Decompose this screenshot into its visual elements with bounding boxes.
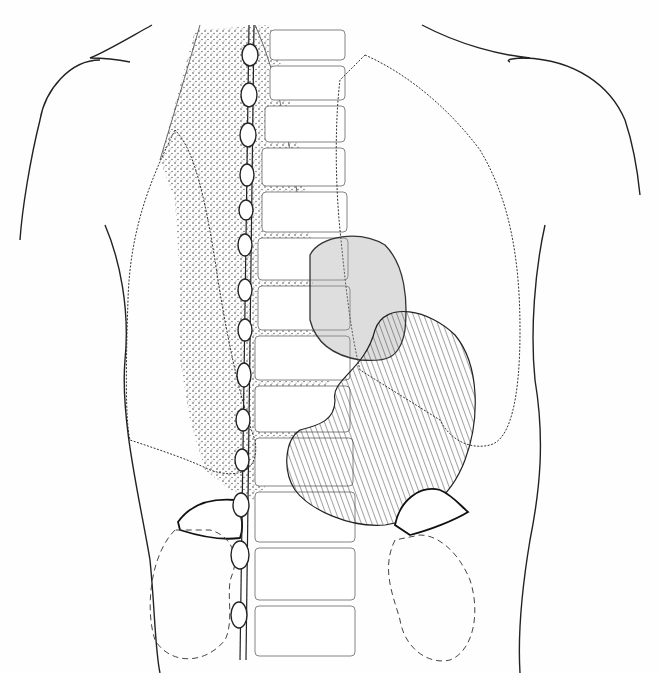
right-kidney	[150, 530, 235, 659]
anatomical-illustration	[0, 0, 658, 673]
left-kidney	[389, 535, 475, 661]
